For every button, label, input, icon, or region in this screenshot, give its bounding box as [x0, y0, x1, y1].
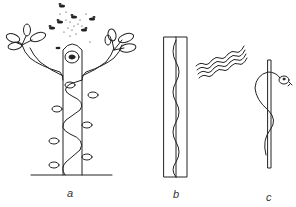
- figure-canvas: [0, 0, 296, 207]
- panel-a-plant: [5, 24, 137, 175]
- panel-b-wavy-lines: [196, 46, 247, 78]
- panel-label-b: b: [173, 188, 179, 200]
- panel-label-a: a: [67, 187, 73, 199]
- panel-label-c: c: [266, 191, 272, 203]
- panel-b-rectangle: [164, 37, 187, 177]
- panel-c-snake-rod: [255, 60, 292, 168]
- insect-swarm: [49, 3, 96, 49]
